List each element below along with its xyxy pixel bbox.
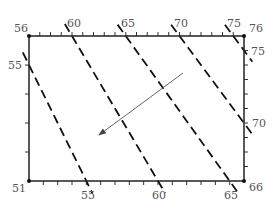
top-label-75: 75 (227, 18, 241, 29)
edge-ticks (25, 32, 248, 185)
top-label-60: 60 (67, 18, 81, 29)
corner-label-bottom-right: 66 (249, 182, 263, 193)
contour-lines (23, 24, 253, 194)
top-label-70: 70 (174, 18, 188, 29)
frame (29, 36, 244, 181)
corner-label-bottom-left: 51 (12, 183, 26, 194)
right-label-70: 70 (252, 118, 266, 129)
bottom-label-60: 60 (152, 190, 166, 201)
contour-diagram-canvas (0, 0, 273, 209)
corner-dots (27, 34, 246, 183)
right-label-75: 75 (251, 46, 265, 57)
bottom-label-55: 55 (81, 190, 95, 201)
contour-line-55 (23, 52, 93, 193)
top-label-65: 65 (121, 18, 135, 29)
corner-label-top-right: 76 (249, 23, 263, 34)
contour-diagram: 56 76 51 66 60 65 70 75 55 60 65 55 75 7… (0, 0, 273, 209)
bottom-label-65: 65 (224, 190, 238, 201)
left-label-55: 55 (8, 60, 22, 71)
corner-label-top-left: 56 (14, 23, 28, 34)
